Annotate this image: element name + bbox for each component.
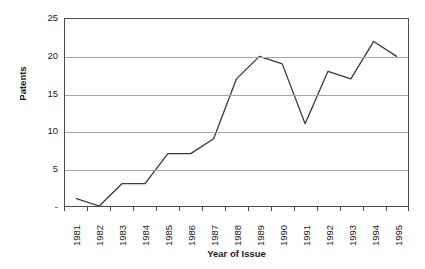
x-tick-label: 1983: [117, 212, 128, 246]
x-tick-label: 1992: [324, 212, 335, 246]
x-tick-label: 1995: [393, 212, 404, 246]
x-tick-mark: [408, 207, 409, 211]
y-tick-label: 20: [32, 51, 58, 61]
gridline: [65, 132, 408, 133]
gridline: [65, 57, 408, 58]
y-axis-title: Patents: [17, 44, 28, 124]
x-tick-mark: [225, 207, 226, 211]
x-tick-mark: [386, 207, 387, 211]
x-tick-mark: [202, 207, 203, 211]
y-tick-label: 10: [32, 126, 58, 136]
series-patents: [76, 41, 396, 206]
x-tick-mark: [317, 207, 318, 211]
y-tick-label: 5: [32, 164, 58, 174]
x-tick-label: 1991: [301, 212, 312, 246]
x-tick-mark: [179, 207, 180, 211]
x-tick-mark: [340, 207, 341, 211]
x-tick-mark: [110, 207, 111, 211]
x-tick-mark: [64, 207, 65, 211]
y-tick-label: 15: [32, 89, 58, 99]
y-tick-label: 25: [32, 13, 58, 23]
x-tick-label: 1982: [94, 212, 105, 246]
x-tick-label: 1988: [232, 212, 243, 246]
x-tick-mark: [133, 207, 134, 211]
x-tick-mark: [248, 207, 249, 211]
x-tick-label: 1987: [209, 212, 220, 246]
x-tick-label: 1985: [163, 212, 174, 246]
gridline: [65, 170, 408, 171]
x-tick-label: 1990: [278, 212, 289, 246]
x-tick-mark: [271, 207, 272, 211]
x-tick-label: 1989: [255, 212, 266, 246]
y-axis-tick-labels: -510152025: [32, 0, 58, 269]
plot-area: [64, 18, 409, 207]
x-tick-label: 1994: [370, 212, 381, 246]
x-tick-label: 1981: [71, 212, 82, 246]
data-line-series: [65, 19, 408, 206]
gridline: [65, 95, 408, 96]
x-tick-label: 1986: [186, 212, 197, 246]
x-tick-mark: [363, 207, 364, 211]
patents-line-chart: Patents -510152025 198119821983198419851…: [0, 0, 425, 269]
x-tick-label: 1984: [140, 212, 151, 246]
x-axis-title: Year of Issue: [64, 248, 409, 259]
x-tick-mark: [87, 207, 88, 211]
x-tick-mark: [294, 207, 295, 211]
x-axis-tick-labels: 1981198219831984198519861987198819891990…: [64, 212, 409, 246]
x-tick-label: 1993: [347, 212, 358, 246]
x-tick-mark: [156, 207, 157, 211]
y-tick-label: -: [32, 202, 58, 212]
